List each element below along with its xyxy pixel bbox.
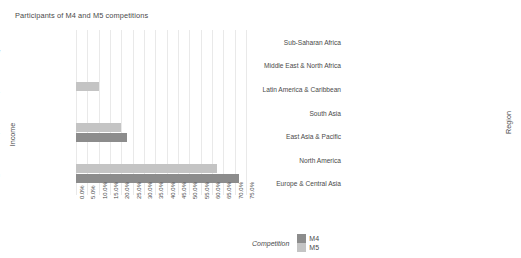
- x-axis-tick-label: 5.0%: [90, 185, 96, 199]
- bar-m5: [76, 123, 121, 132]
- y-axis-tick-label: Europe & Central Asia: [161, 180, 341, 187]
- y-axis-tick-label: South Asia: [161, 109, 341, 116]
- legend-title: Competition: [252, 240, 289, 247]
- legend-swatch-m5: [297, 243, 306, 252]
- chart-panel-region: Region 0.0%5.0%10.0%15.0%20.0%25.0%30.0%…: [260, 0, 521, 258]
- bar-m5: [76, 82, 99, 91]
- bar-m4: [76, 133, 127, 142]
- legend-swatch-m4: [297, 234, 306, 243]
- legend-item-m5: M5: [297, 243, 319, 252]
- legend-label: M4: [309, 235, 319, 242]
- y-axis-tick-label: Sub-Saharan Africa: [161, 38, 341, 45]
- x-axis-tick-label: 0.0%: [79, 185, 85, 199]
- x-axis-tick-label: 15.0%: [113, 182, 119, 199]
- legend-items: M4M5: [297, 234, 326, 252]
- legend: Competition M4M5: [252, 234, 326, 252]
- legend-label: M5: [309, 244, 319, 251]
- y-axis-tick-label: East Asia & Pacific: [161, 133, 341, 140]
- x-axis-tick-label: 30.0%: [147, 182, 153, 199]
- bar-m5: [76, 164, 217, 173]
- x-axis-tick-label: 25.0%: [136, 182, 142, 199]
- y-axis-title-income: Income: [8, 115, 17, 155]
- y-axis-title-region: Region: [504, 103, 513, 143]
- y-axis-tick-label: Middle East & North Africa: [161, 62, 341, 69]
- legend-item-m4: M4: [297, 234, 319, 243]
- chart-page: Participants of M4 and M5 competitions I…: [0, 0, 521, 258]
- y-axis-tick-label: North America: [161, 156, 341, 163]
- x-axis-tick-label: 20.0%: [124, 182, 130, 199]
- x-axis-tick-label: 10.0%: [102, 182, 108, 199]
- y-axis-tick-label: Latin America & Caribbean: [161, 85, 341, 92]
